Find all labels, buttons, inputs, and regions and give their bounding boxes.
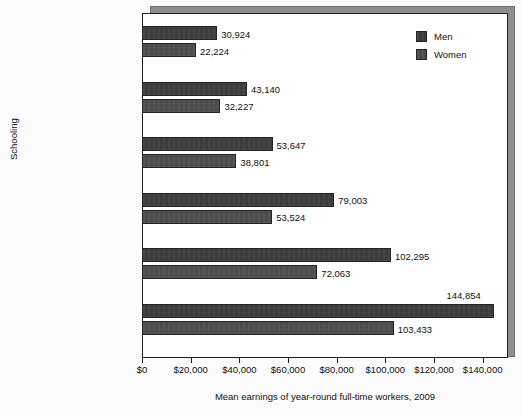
bar-men <box>142 82 247 96</box>
x-tick-mark <box>483 358 484 363</box>
x-axis-title: Mean earnings of year-round full-time wo… <box>142 391 508 402</box>
x-tick-mark <box>385 358 386 363</box>
bar-men <box>142 248 391 262</box>
bar-value-label: 53,524 <box>276 212 305 223</box>
bar-value-label: 103,433 <box>398 324 432 335</box>
bar-women <box>142 99 220 113</box>
bar-value-label: 102,295 <box>395 251 429 262</box>
bar-men <box>142 26 217 40</box>
bar-women <box>142 321 394 335</box>
legend-label-women: Women <box>434 49 467 60</box>
plot-top-border <box>142 13 508 14</box>
legend-label-men: Men <box>434 31 452 42</box>
legend-swatch-women-icon <box>416 49 427 60</box>
bar-value-label: 53,647 <box>277 140 306 151</box>
bar-men <box>142 137 273 151</box>
legend-item-men: Men <box>416 27 467 45</box>
x-tick-mark <box>142 358 143 363</box>
x-tick-label: $120,000 <box>414 364 454 375</box>
bar-women <box>142 210 272 224</box>
legend-item-women: Women <box>416 45 467 63</box>
bar-women <box>142 265 317 279</box>
bar-women <box>142 43 196 57</box>
x-tick-mark <box>434 358 435 363</box>
x-tick-label: $80,000 <box>319 364 353 375</box>
bar-value-label: 22,224 <box>200 46 229 57</box>
x-tick-label: $60,000 <box>271 364 305 375</box>
x-tick-label: $100,000 <box>366 364 406 375</box>
legend: Men Women <box>416 27 467 63</box>
x-tick-label: $140,000 <box>463 364 503 375</box>
x-tick-mark <box>288 358 289 363</box>
legend-swatch-men-icon <box>416 31 427 42</box>
x-tick-label: $40,000 <box>222 364 256 375</box>
bar-value-label: 79,003 <box>338 195 367 206</box>
bar-value-label: 144,854 <box>446 290 480 301</box>
y-axis-title: Schooling <box>8 118 19 160</box>
bar-women <box>142 154 236 168</box>
bar-men <box>142 304 494 318</box>
x-tick-mark <box>239 358 240 363</box>
x-tick-label: $20,000 <box>173 364 207 375</box>
x-tick-label: $0 <box>137 364 148 375</box>
bar-value-label: 43,140 <box>251 84 280 95</box>
bar-men <box>142 193 334 207</box>
plot-right-border <box>507 13 508 358</box>
x-tick-mark <box>191 358 192 363</box>
x-axis-line <box>142 357 508 358</box>
bar-value-label: 38,801 <box>240 157 269 168</box>
bar-value-label: 32,227 <box>224 101 253 112</box>
earnings-by-schooling-chart: $0$20,000$40,000$60,000$80,000$100,000$1… <box>0 0 523 417</box>
bar-value-label: 72,063 <box>321 268 350 279</box>
x-tick-mark <box>337 358 338 363</box>
bar-value-label: 30,924 <box>221 29 250 40</box>
